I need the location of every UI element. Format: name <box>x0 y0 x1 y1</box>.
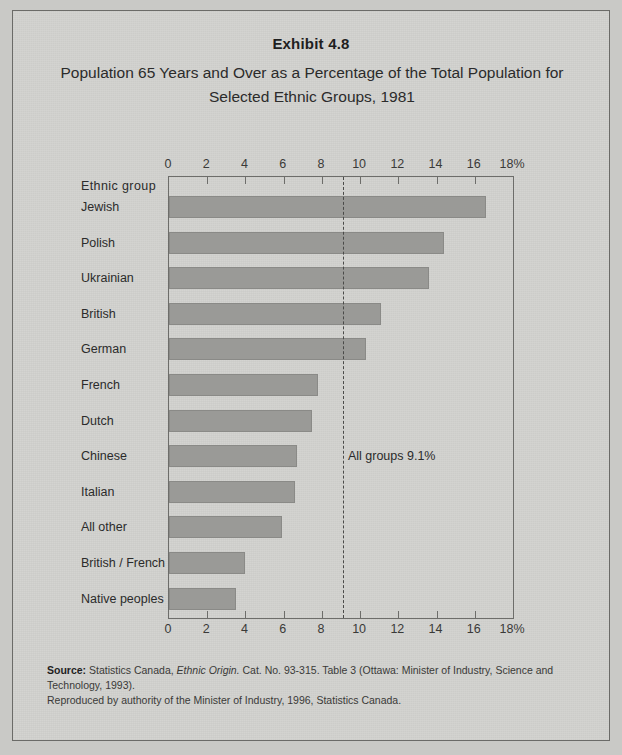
x-axis-tick-label: 10 <box>352 157 366 171</box>
x-axis-tick-label: 0 <box>165 622 172 636</box>
x-axis-tick-label: 4 <box>241 157 248 171</box>
x-axis-tick-mark <box>245 611 246 618</box>
bar <box>169 410 312 432</box>
x-axis-tick-mark <box>207 611 208 618</box>
x-axis-tick-mark <box>437 611 438 618</box>
bar <box>169 588 236 610</box>
source-label: Source: <box>47 664 86 676</box>
category-label: German <box>81 342 126 356</box>
bar <box>169 552 245 574</box>
x-axis-tick-mark <box>284 177 285 184</box>
x-axis-tick-mark <box>245 177 246 184</box>
category-label: Italian <box>81 485 114 499</box>
reference-annotation: All groups 9.1% <box>348 449 436 463</box>
x-axis-tick-label: 8 <box>317 157 324 171</box>
category-label: All other <box>81 520 127 534</box>
source-text-part1: Statistics Canada, <box>86 664 176 676</box>
x-axis-tick-mark <box>475 611 476 618</box>
x-axis-tick-label: 12 <box>390 622 404 636</box>
exhibit-page: Exhibit 4.8 Population 65 Years and Over… <box>0 0 622 755</box>
bars-layer <box>169 177 513 618</box>
bar-chart: Ethnic group 024681012141618% 0246810121… <box>13 11 611 742</box>
x-axis-tick-mark <box>322 177 323 184</box>
category-label: French <box>81 378 120 392</box>
exhibit-frame: Exhibit 4.8 Population 65 Years and Over… <box>12 10 610 741</box>
bar <box>169 445 297 467</box>
bar <box>169 232 444 254</box>
x-axis-tick-label: 16 <box>467 622 481 636</box>
x-axis-tick-label: 14 <box>429 622 443 636</box>
source-line-1: Source: Statistics Canada, Ethnic Origin… <box>47 663 587 693</box>
x-axis-tick-label: 16 <box>467 157 481 171</box>
bar <box>169 481 295 503</box>
category-label: British <box>81 307 116 321</box>
x-axis-bottom-labels: 024681012141618% <box>168 622 514 638</box>
x-axis-tick-label: 0 <box>165 157 172 171</box>
source-italic-title: Ethnic Origin. <box>177 664 240 676</box>
x-axis-tick-label: 2 <box>203 157 210 171</box>
x-axis-tick-mark <box>398 177 399 184</box>
reference-line <box>343 177 344 618</box>
bar <box>169 338 366 360</box>
x-axis-tick-label: 6 <box>279 622 286 636</box>
x-axis-tick-label: 14 <box>429 157 443 171</box>
source-line-2: Reproduced by authority of the Minister … <box>47 693 587 708</box>
bar <box>169 196 486 218</box>
category-label: Native peoples <box>81 592 164 606</box>
bar <box>169 267 429 289</box>
x-axis-tick-mark <box>322 611 323 618</box>
category-label: Jewish <box>81 200 119 214</box>
bar <box>169 374 318 396</box>
bar <box>169 303 381 325</box>
x-axis-tick-label: 18% <box>499 157 524 171</box>
category-label: Polish <box>81 236 115 250</box>
category-label: Dutch <box>81 414 114 428</box>
x-axis-tick-mark <box>398 611 399 618</box>
x-axis-tick-label: 12 <box>390 157 404 171</box>
category-label: Chinese <box>81 449 127 463</box>
bar <box>169 516 282 538</box>
x-axis-tick-mark <box>475 177 476 184</box>
x-axis-tick-label: 18% <box>499 622 524 636</box>
x-axis-tick-mark <box>284 611 285 618</box>
category-label: Ukrainian <box>81 271 134 285</box>
x-axis-tick-mark <box>360 177 361 184</box>
x-axis-tick-mark <box>207 177 208 184</box>
x-axis-tick-mark <box>360 611 361 618</box>
x-axis-tick-label: 10 <box>352 622 366 636</box>
x-axis-top-labels: 024681012141618% <box>168 157 514 173</box>
x-axis-tick-label: 6 <box>279 157 286 171</box>
x-axis-tick-label: 8 <box>317 622 324 636</box>
x-axis-tick-mark <box>437 177 438 184</box>
source-note: Source: Statistics Canada, Ethnic Origin… <box>47 663 587 708</box>
x-axis-tick-label: 2 <box>203 622 210 636</box>
category-label: British / French <box>81 556 165 570</box>
category-labels: JewishPolishUkrainianBritishGermanFrench… <box>81 177 161 618</box>
x-axis-tick-label: 4 <box>241 622 248 636</box>
